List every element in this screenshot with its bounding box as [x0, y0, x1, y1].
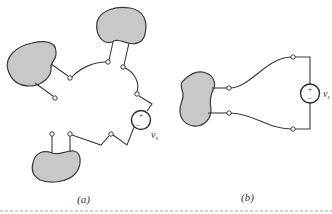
lead	[51, 64, 68, 76]
network-blob-b	[180, 72, 215, 126]
network-blob-left	[7, 42, 56, 86]
network-blob-bottom	[32, 151, 80, 182]
panel-label-b: (b)	[241, 191, 254, 203]
wire	[231, 113, 291, 129]
source-label-a: vs	[151, 129, 158, 141]
terminal-node	[291, 127, 295, 131]
terminal-node	[68, 132, 72, 136]
terminal-node	[227, 111, 231, 115]
wire	[231, 57, 291, 88]
terminal-node	[109, 132, 113, 136]
network-blob-top	[97, 8, 146, 44]
plus-sign: +	[139, 111, 144, 120]
wire	[113, 127, 134, 145]
source-label-b: vs	[323, 88, 330, 100]
figure-caption-truncated	[0, 208, 332, 214]
terminal-node	[291, 55, 295, 59]
circuit-diagram: + − vs + − vs	[0, 0, 332, 214]
lead	[35, 83, 53, 96]
terminal-node	[227, 86, 231, 90]
terminal-node	[135, 92, 139, 96]
panel-b-diagram: + − vs	[180, 55, 331, 131]
wire	[72, 135, 109, 145]
wire	[125, 68, 138, 92]
minus-sign: −	[136, 121, 141, 130]
terminal-node	[106, 60, 110, 64]
panel-label-a: (a)	[77, 193, 90, 205]
wire	[72, 62, 106, 77]
wire	[295, 103, 310, 129]
terminal-node	[50, 132, 54, 136]
terminal-node	[53, 96, 57, 100]
plus-sign: +	[308, 85, 313, 94]
lead	[109, 42, 113, 60]
terminal-node	[68, 76, 72, 80]
lead	[124, 43, 129, 65]
terminal-node	[121, 65, 125, 69]
wire	[295, 57, 310, 84]
wire	[139, 96, 152, 111]
minus-sign: −	[308, 94, 313, 103]
panel-a-diagram: + − vs	[7, 8, 158, 182]
